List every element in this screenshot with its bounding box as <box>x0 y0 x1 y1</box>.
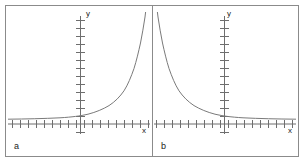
panel-b-plot <box>153 6 298 156</box>
panel-b-letter: b <box>161 142 166 151</box>
panel-a-x-axis-label: x <box>142 127 146 135</box>
figure-container: y x a <box>0 0 305 163</box>
panel-a-plot <box>6 6 152 156</box>
panel-a-y-axis-label: y <box>86 10 90 18</box>
panel-b: y x b <box>153 6 298 156</box>
panel-a-letter: a <box>14 142 19 151</box>
panel-b-y-axis-label: y <box>227 10 231 18</box>
panel-b-x-axis-label: x <box>288 127 292 135</box>
panel-a: y x a <box>6 6 152 156</box>
